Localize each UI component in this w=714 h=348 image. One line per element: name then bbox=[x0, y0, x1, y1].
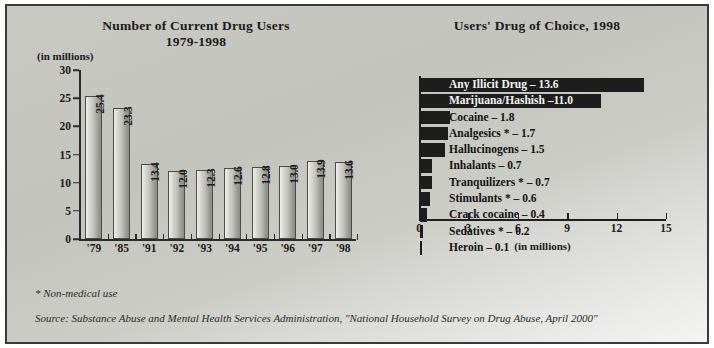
right-chart: Any Illicit Drug – 13.6Marijuana/Hashish… bbox=[379, 50, 699, 265]
left-chart-x-tick-mark bbox=[357, 234, 358, 240]
left-chart-bar-value-label: 13.0 bbox=[288, 164, 300, 183]
left-chart-bar: 13.4 bbox=[141, 164, 158, 239]
right-chart-bar-label: Hallucinogens – 1.5 bbox=[449, 142, 545, 157]
left-chart-title: Number of Current Drug Users 1979-1998 bbox=[31, 18, 361, 50]
left-chart-x-tick-label: '91 bbox=[142, 242, 157, 254]
left-chart-bar: 25.4 bbox=[85, 96, 102, 239]
left-chart-bar: 12.0 bbox=[168, 171, 185, 239]
left-chart-x-tick-label: '95 bbox=[253, 242, 268, 254]
right-chart-bar-label: Marijuana/Hashish –11.0 bbox=[449, 93, 573, 108]
left-chart-bar: 12.8 bbox=[252, 167, 269, 239]
footnote: * Non-medical use bbox=[35, 287, 117, 299]
right-chart-bar-row: Hallucinogens – 1.5 bbox=[420, 142, 680, 158]
source-note: Source: Substance Abuse and Mental Healt… bbox=[35, 312, 598, 324]
left-chart-x-tick-mark bbox=[219, 234, 220, 240]
right-chart-x-tick-mark bbox=[419, 213, 420, 219]
left-chart-title-line1: Number of Current Drug Users bbox=[31, 18, 361, 34]
right-chart-bar-label: Any Illicit Drug – 13.6 bbox=[449, 77, 559, 92]
left-chart-bar-value-label: 13.9 bbox=[315, 159, 327, 178]
right-chart-x-tick-label: 0 bbox=[416, 222, 422, 234]
right-chart-bar-label: Crack cocaine – 0.4 bbox=[449, 207, 545, 222]
right-chart-x-tick-mark bbox=[518, 213, 519, 219]
right-chart-bar-label: Tranquilizers * – 0.7 bbox=[449, 175, 550, 190]
right-chart-x-axis-units: (in millions) bbox=[419, 240, 666, 252]
figure-canvas: Number of Current Drug Users 1979-1998 (… bbox=[7, 6, 707, 342]
right-chart-x-tick-mark bbox=[567, 213, 568, 219]
figure-frame: Number of Current Drug Users 1979-1998 (… bbox=[5, 4, 709, 344]
right-chart-bar-row: Analgesics * – 1.7 bbox=[420, 126, 680, 142]
right-chart-bar bbox=[420, 143, 445, 157]
right-chart-bar-label: Analgesics * – 1.7 bbox=[449, 126, 535, 141]
right-chart-bar bbox=[420, 176, 432, 190]
right-chart-x-tick-label: 3 bbox=[466, 222, 472, 234]
left-chart-title-line2: 1979-1998 bbox=[31, 34, 361, 50]
left-chart-y-tick-label: 25 bbox=[47, 92, 71, 104]
left-chart-y-tick-mark bbox=[73, 182, 79, 184]
right-chart-x-tick-label: 15 bbox=[660, 222, 672, 234]
left-chart-x-tick-mark bbox=[80, 234, 81, 240]
right-chart-bar-label: Stimulants * – 0.6 bbox=[449, 191, 537, 206]
left-chart-y-tick-mark bbox=[73, 97, 79, 99]
right-chart-bar-row: Stimulants * – 0.6 bbox=[420, 191, 680, 207]
right-chart-x-tick-mark bbox=[666, 213, 667, 219]
left-chart-x-tick-label: '97 bbox=[308, 242, 323, 254]
figure-root: Number of Current Drug Users 1979-1998 (… bbox=[0, 0, 714, 348]
left-chart-bar-value-label: 12.3 bbox=[205, 168, 217, 187]
left-chart-x-axis-line bbox=[79, 239, 356, 241]
left-chart-y-tick-label: 30 bbox=[47, 64, 71, 76]
left-chart-x-tick-mark bbox=[108, 234, 109, 240]
left-chart-x-tick-mark bbox=[163, 234, 164, 240]
left-chart-bar: 12.6 bbox=[224, 168, 241, 239]
left-chart-bar: 13.0 bbox=[279, 166, 296, 239]
left-chart-x-tick-label: '96 bbox=[280, 242, 295, 254]
right-chart-x-tick-label: 6 bbox=[515, 222, 521, 234]
left-chart-y-tick-labels: 051015202530 bbox=[35, 50, 71, 260]
right-chart-x-tick-label: 9 bbox=[564, 222, 570, 234]
left-chart-x-tick-label: '85 bbox=[114, 242, 129, 254]
left-chart-x-tick-label: '98 bbox=[336, 242, 351, 254]
left-chart-bar-value-label: 12.6 bbox=[232, 166, 244, 185]
right-chart-bars: Any Illicit Drug – 13.6Marijuana/Hashish… bbox=[420, 77, 680, 256]
left-chart-x-tick-label: '92 bbox=[170, 242, 185, 254]
left-chart-y-tick-label: 20 bbox=[47, 120, 71, 132]
left-chart-y-tick-mark bbox=[73, 69, 79, 71]
left-chart-x-tick-mark bbox=[246, 234, 247, 240]
left-chart-y-tick-mark bbox=[73, 126, 79, 128]
right-chart-bar-row: Cocaine – 1.8 bbox=[420, 110, 680, 126]
right-chart-x-tick-mark bbox=[468, 213, 469, 219]
right-chart-bar-label: Inhalants – 0.7 bbox=[449, 158, 522, 173]
left-chart-bar-value-label: 13.6 bbox=[343, 161, 355, 180]
left-chart-y-tick-mark bbox=[73, 238, 79, 240]
left-chart: (in millions) 051015202530 25.423.313.41… bbox=[27, 50, 372, 260]
left-chart-x-tick-label: '93 bbox=[197, 242, 212, 254]
right-chart-bar bbox=[420, 159, 432, 173]
left-chart-x-tick-mark bbox=[274, 234, 275, 240]
left-chart-x-tick-label: '94 bbox=[225, 242, 240, 254]
left-chart-x-tick-mark bbox=[302, 234, 303, 240]
right-chart-bar-row: Crack cocaine – 0.4 bbox=[420, 207, 680, 223]
left-chart-x-tick-label: '79 bbox=[86, 242, 101, 254]
left-chart-bar-value-label: 12.8 bbox=[260, 165, 272, 184]
left-chart-bar: 13.9 bbox=[307, 161, 324, 239]
right-chart-title: Users' Drug of Choice, 1998 bbox=[379, 18, 695, 34]
left-chart-bar-value-label: 12.0 bbox=[177, 170, 189, 189]
left-chart-y-tick-mark bbox=[73, 154, 79, 156]
left-chart-bars: 25.423.313.412.012.312.612.813.013.913.6 bbox=[80, 70, 357, 239]
left-chart-bar-value-label: 23.3 bbox=[122, 106, 134, 125]
right-chart-bar-label: Cocaine – 1.8 bbox=[449, 110, 514, 125]
right-chart-x-tick-label: 12 bbox=[611, 222, 623, 234]
left-chart-y-tick-label: 10 bbox=[47, 177, 71, 189]
left-chart-bar: 12.3 bbox=[196, 170, 213, 239]
right-chart-bar bbox=[420, 192, 430, 206]
left-chart-bar-value-label: 25.4 bbox=[94, 94, 106, 113]
left-chart-x-tick-mark bbox=[329, 234, 330, 240]
right-chart-bar-row: Marijuana/Hashish –11.0 bbox=[420, 93, 680, 109]
right-chart-bar-row: Any Illicit Drug – 13.6 bbox=[420, 77, 680, 93]
right-chart-bar-row: Tranquilizers * – 0.7 bbox=[420, 175, 680, 191]
left-chart-y-tick-label: 15 bbox=[47, 149, 71, 161]
left-chart-y-tick-mark bbox=[73, 210, 79, 212]
left-chart-bar-value-label: 13.4 bbox=[149, 162, 161, 181]
right-chart-x-tick-mark bbox=[617, 213, 618, 219]
left-chart-x-tick-mark bbox=[191, 234, 192, 240]
left-chart-y-tick-label: 5 bbox=[47, 205, 71, 217]
